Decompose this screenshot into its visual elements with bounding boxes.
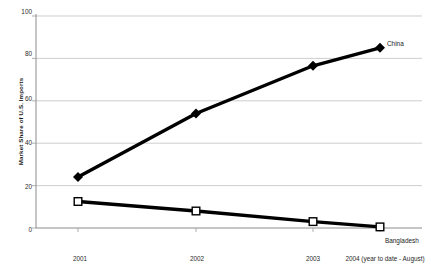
series-line-china — [78, 48, 380, 177]
chart-container: Market Share of U.S. Imports 0 20 40 60 … — [0, 0, 431, 272]
chart-plot — [0, 0, 431, 272]
series-line-bangladesh — [78, 202, 380, 227]
axis-lines — [36, 14, 422, 228]
series-markers-china — [73, 43, 385, 182]
x-tick-marks — [78, 228, 380, 232]
y-tick-marks — [32, 16, 36, 228]
